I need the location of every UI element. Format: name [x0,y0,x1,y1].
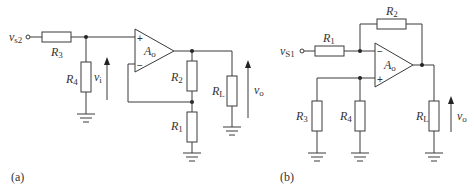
label-vi: vi [94,70,102,85]
ground-icon [308,153,326,161]
input-terminal-vs2 [26,35,30,39]
resistor-r4 [81,62,91,92]
label-vo: vo [457,109,467,124]
circuit-diagrams: + − [0,0,474,189]
input-terminal-vs1 [300,49,304,53]
plus-sign: + [137,33,143,44]
ground-icon [223,127,241,135]
circuit-a: + − [9,29,264,184]
ground-icon [425,153,443,161]
minus-sign: − [377,46,383,57]
ground-icon [77,114,95,122]
circuit-b: − + [280,4,467,184]
label-r2: R2 [385,4,398,19]
resistor-r3 [312,101,322,131]
label-r3: R3 [295,109,308,124]
resistor-r1 [187,112,197,142]
resistor-r1 [315,46,344,56]
label-r4: R4 [339,109,352,124]
caption-a: (a) [11,170,24,184]
label-rl: RL [415,109,429,124]
label-r4: R4 [65,72,78,87]
label-r1: R1 [322,31,335,46]
label-r2: R2 [170,70,183,85]
voltage-arrow-vo [245,60,251,118]
resistor-r2 [377,19,406,29]
resistor-r3 [42,32,71,42]
label-r3: R3 [50,45,63,60]
resistor-rl [227,76,237,106]
label-vo: vo [254,83,264,98]
voltage-arrow-vi [104,57,110,100]
minus-sign: − [137,60,143,71]
ground-icon [183,153,201,161]
label-r1: R1 [170,119,183,134]
caption-b: (b) [280,170,294,184]
resistor-rl [429,101,439,131]
label-vs2: vs2 [9,30,22,45]
voltage-arrow-vo [448,96,454,132]
ground-icon [351,153,369,161]
label-rl: RL [211,84,225,99]
resistor-r4 [355,101,365,131]
label-vs1: vS1 [280,44,295,59]
plus-sign: + [377,74,383,85]
resistor-r2 [187,61,197,91]
